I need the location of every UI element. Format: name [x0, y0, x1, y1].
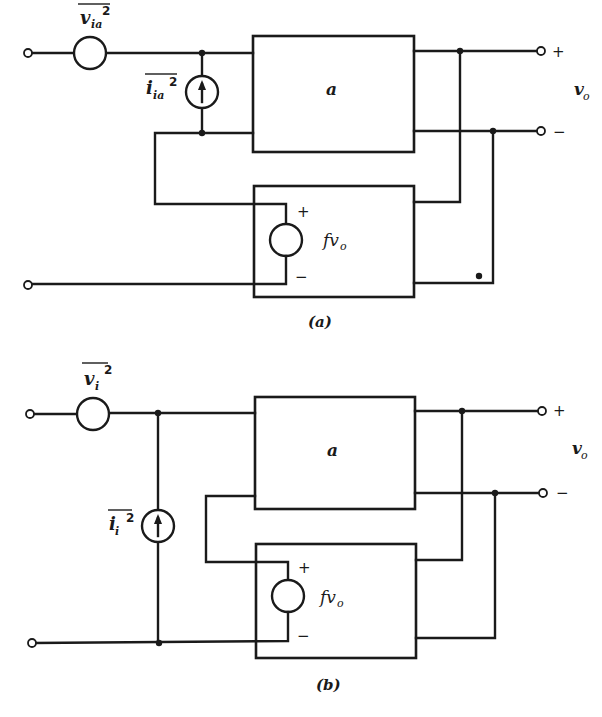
- wire: [155, 133, 286, 224]
- feedback-voltage-source-icon: [270, 224, 302, 256]
- wire: [34, 612, 288, 643]
- noise-voltage-superscript: 2: [104, 363, 112, 377]
- input-terminal-bottom: [28, 639, 36, 647]
- input-terminal-bottom: [24, 281, 32, 289]
- feedback-minus: −: [295, 268, 308, 286]
- feedback-plus: +: [298, 559, 311, 577]
- wire: [28, 256, 286, 284]
- noise-voltage-label: v: [80, 7, 91, 28]
- feedback-voltage-source-icon: [272, 580, 304, 612]
- feedback-source-label: fv: [318, 587, 336, 607]
- wire: [416, 411, 462, 560]
- caption-b: (b): [316, 676, 341, 694]
- noise-voltage-source-icon: [77, 398, 109, 430]
- noise-current-superscript: 2: [169, 75, 177, 89]
- noise-voltage-superscript: 2: [102, 4, 110, 18]
- output-terminal-plus: [537, 47, 545, 55]
- dot-mark: [476, 273, 482, 279]
- feedback-source-label: fv: [321, 230, 339, 250]
- wire: [416, 493, 495, 638]
- feedback-minus: −: [297, 627, 310, 645]
- feedback-amplifier-noise-diagram: v ia 2 i ia 2 a + − fv o + − v o (a): [0, 0, 602, 717]
- amplifier-label: a: [326, 79, 337, 99]
- noise-voltage-subscript: i: [95, 380, 99, 393]
- circuit-b: [26, 397, 547, 658]
- noise-current-subscript: ia: [153, 89, 164, 102]
- noise-voltage-label: v: [84, 368, 95, 389]
- output-terminal-minus: [537, 127, 545, 135]
- noise-current-subscript: i: [115, 525, 119, 538]
- output-terminal-minus: [539, 489, 547, 497]
- caption-a: (a): [308, 313, 332, 331]
- noise-voltage-source-icon: [74, 37, 106, 69]
- output-voltage-subscript: o: [583, 90, 590, 103]
- noise-current-superscript: 2: [126, 511, 134, 525]
- amplifier-label: a: [327, 440, 338, 460]
- output-plus: +: [552, 43, 565, 61]
- feedback-source-subscript: o: [340, 240, 347, 253]
- noise-voltage-subscript: ia: [91, 18, 102, 31]
- output-plus: +: [553, 402, 566, 420]
- wire: [414, 131, 493, 283]
- feedback-plus: +: [297, 203, 310, 221]
- feedback-source-subscript: o: [337, 597, 344, 610]
- wire: [414, 51, 460, 202]
- output-minus: −: [556, 484, 569, 502]
- input-terminal-top: [24, 49, 32, 57]
- circuit-a: [24, 36, 545, 297]
- input-terminal-top: [26, 410, 34, 418]
- output-voltage-subscript: o: [581, 449, 588, 462]
- output-terminal-plus: [538, 407, 546, 415]
- junction-dot: [199, 50, 205, 56]
- output-minus: −: [553, 123, 566, 141]
- noise-current-label: i: [146, 77, 153, 98]
